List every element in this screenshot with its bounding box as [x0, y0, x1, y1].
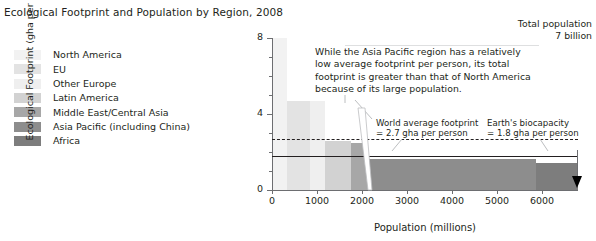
y-tick-minor	[269, 171, 272, 172]
x-tick	[362, 190, 363, 194]
page-title: Ecological Footprint and Population by R…	[4, 6, 283, 18]
legend-item: North America	[14, 48, 214, 62]
legend-label-north-america: North America	[53, 50, 122, 60]
x-tick	[452, 190, 453, 194]
legend-item: Asia Pacific (including China)	[14, 119, 214, 133]
x-tick-label: 6000	[522, 196, 562, 206]
chart-annotation: While the Asia Pacific region has a rela…	[315, 46, 539, 95]
total-population-marker-icon	[572, 176, 582, 188]
callout-biocapacity-line2: = 1.8 gha per person	[487, 128, 579, 138]
legend-label-middle-east-central-asia: Middle East/Central Asia	[53, 108, 169, 118]
legend-item: Other Europe	[14, 77, 214, 91]
bar-latin-america	[325, 141, 351, 190]
x-tick	[272, 190, 273, 194]
y-tick-minor	[269, 95, 272, 96]
x-tick-label: 1000	[297, 196, 337, 206]
legend-item: EU	[14, 62, 214, 76]
y-tick-minor	[269, 133, 272, 134]
x-tick-label: 5000	[477, 196, 517, 206]
callout-world-average-line1: World average footprint	[376, 118, 478, 128]
y-axis-label: Ecological Footprint (gha per capita)	[24, 0, 35, 141]
bar-eu	[287, 101, 310, 190]
total-population-label: Total population 7 billion	[518, 18, 592, 41]
chart-legend: North America EU Other Europe Latin Amer…	[14, 48, 214, 148]
y-tick-minor	[269, 152, 272, 153]
callout-world-average: World average footprint = 2.7 gha per pe…	[376, 118, 478, 138]
total-population-line1: Total population	[518, 18, 592, 30]
callout-world-average-line2: = 2.7 gha per person	[376, 128, 478, 138]
x-tick-label: 2000	[342, 196, 382, 206]
y-tick-label: 0	[241, 184, 263, 194]
y-tick	[267, 38, 272, 39]
legend-label-africa: Africa	[53, 136, 80, 146]
x-tick-label: 4000	[432, 196, 472, 206]
right-edge-tick	[577, 150, 578, 178]
x-tick	[497, 190, 498, 194]
x-tick	[317, 190, 318, 194]
chart-root: Ecological Footprint and Population by R…	[0, 0, 596, 241]
total-population-line2: 7 billion	[518, 30, 592, 42]
y-tick-minor	[269, 76, 272, 77]
x-tick	[407, 190, 408, 194]
legend-label-latin-america: Latin America	[53, 93, 119, 103]
bar-middle-east-central-asia	[351, 143, 368, 191]
bar-north-america	[272, 38, 287, 190]
callout-biocapacity: Earth's biocapacity = 1.8 gha per person	[487, 118, 579, 138]
y-tick-minor	[269, 57, 272, 58]
legend-item: Middle East/Central Asia	[14, 105, 214, 119]
reference-line-biocapacity	[272, 156, 578, 157]
legend-item: Africa	[14, 134, 214, 148]
x-axis-label: Population (millions)	[272, 222, 578, 233]
legend-label-eu: EU	[53, 65, 66, 75]
legend-label-other-europe: Other Europe	[53, 79, 116, 89]
legend-label-asia-pacific: Asia Pacific (including China)	[53, 122, 190, 132]
bar-asia-pacific-including-china	[368, 159, 536, 190]
y-axis-line	[272, 38, 273, 190]
callout-biocapacity-line1: Earth's biocapacity	[487, 118, 579, 128]
x-tick	[542, 190, 543, 194]
bar-other-europe	[310, 101, 325, 190]
y-tick	[267, 114, 272, 115]
x-tick-label: 3000	[387, 196, 427, 206]
reference-line-world-average	[272, 139, 578, 140]
y-tick-label: 4	[241, 108, 263, 118]
y-tick-label: 8	[241, 32, 263, 42]
x-tick-label: 0	[252, 196, 292, 206]
legend-item: Latin America	[14, 91, 214, 105]
